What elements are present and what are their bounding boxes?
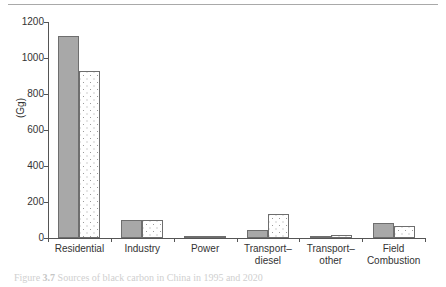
caption-number: 3.7 xyxy=(43,272,56,283)
figure-caption: Figure 3.7 Sources of black carbon in Ch… xyxy=(14,272,434,284)
category-label-industry: Industry xyxy=(111,243,174,255)
y-tick-mark xyxy=(44,22,48,23)
bar-group xyxy=(310,22,352,238)
bar-2020-field-combustion[interactable] xyxy=(394,226,415,238)
bar-group xyxy=(373,22,415,238)
caption-text: Sources of black carbon in China in 1995… xyxy=(58,272,263,283)
bar-1995-field-combustion[interactable] xyxy=(373,223,394,238)
bar-group xyxy=(121,22,163,238)
bar-group xyxy=(247,22,289,238)
plot-area: 020040060080010001200 xyxy=(48,22,425,238)
x-tick-mark xyxy=(111,238,112,242)
y-tick-mark xyxy=(44,58,48,59)
y-tick-mark xyxy=(44,166,48,167)
y-tick-label: 200 xyxy=(27,195,44,208)
caption-prefix: Figure xyxy=(14,272,40,283)
category-label-residential: Residential xyxy=(48,243,111,255)
bar-1995-transport-diesel[interactable] xyxy=(247,230,268,238)
bar-group xyxy=(58,22,100,238)
y-tick-mark xyxy=(44,130,48,131)
y-axis-title: (Gg) xyxy=(15,98,26,118)
bar-1995-transport-other[interactable] xyxy=(310,236,331,238)
x-tick-mark xyxy=(362,238,363,242)
category-label-field-combustion: Field Combustion xyxy=(362,243,425,266)
bar-group xyxy=(184,22,226,238)
bar-2020-transport-other[interactable] xyxy=(331,235,352,238)
x-tick-mark xyxy=(48,238,49,242)
bar-1995-industry[interactable] xyxy=(121,220,142,238)
bar-1995-power[interactable] xyxy=(184,236,205,238)
y-tick-label: 1200 xyxy=(22,15,44,28)
y-tick-mark xyxy=(44,94,48,95)
x-tick-mark xyxy=(425,238,426,242)
y-tick-label: 800 xyxy=(27,87,44,100)
y-tick-mark xyxy=(44,202,48,203)
category-label-power: Power xyxy=(174,243,237,255)
bar-1995-residential[interactable] xyxy=(58,36,79,238)
bar-2020-transport-diesel[interactable] xyxy=(268,214,289,238)
figure-container: (Gg) 020040060080010001200 ResidentialIn… xyxy=(0,0,446,287)
y-tick-label: 400 xyxy=(27,159,44,172)
x-tick-mark xyxy=(299,238,300,242)
bar-2020-power[interactable] xyxy=(205,236,226,238)
category-label-transport-diesel: Transport– diesel xyxy=(237,243,300,266)
x-tick-mark xyxy=(174,238,175,242)
bar-2020-residential[interactable] xyxy=(79,71,100,238)
y-tick-label: 0 xyxy=(38,231,44,244)
y-tick-label: 600 xyxy=(27,123,44,136)
x-tick-mark xyxy=(237,238,238,242)
bar-2020-industry[interactable] xyxy=(142,220,163,238)
y-tick-label: 1000 xyxy=(22,51,44,64)
category-label-transport-other: Transport– other xyxy=(299,243,362,266)
top-horizontal-rule xyxy=(8,4,438,5)
y-axis-line xyxy=(48,22,49,238)
